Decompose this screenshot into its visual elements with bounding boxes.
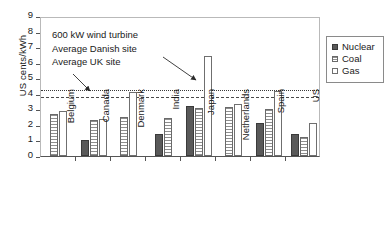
legend-item-coal[interactable]: Coal [332,53,379,65]
x-axis-separator-tick [285,157,286,161]
x-axis-separator-tick [250,157,251,161]
bar-denmark-coal [120,117,128,156]
x-axis-label-india: India [169,89,183,163]
legend-label: Nuclear [342,41,375,53]
x-axis-label-denmark: Denmark [134,89,148,163]
x-axis-separator-tick [75,157,76,161]
x-axis-label-belgium: Belgium [64,89,78,163]
x-axis-separator-tick [215,157,216,161]
y-axis-tick-label: 2 [28,119,33,129]
x-axis-label-canada: Canada [99,89,113,163]
bar-belgium-coal [50,114,58,156]
y-axis-tick-label: 5 [28,72,33,82]
x-axis-separator-tick [180,157,181,161]
annotation-line: Average UK site [52,55,138,69]
y-axis-tick-label: 9 [28,10,33,20]
y-axis-tick-label: 7 [28,41,33,51]
y-axis-tick-label: 0 [28,150,33,160]
legend-label: Coal [342,53,362,65]
bar-india-nuclear [155,134,163,156]
annotation-text-block: 600 kW wind turbineAverage Danish siteAv… [52,28,138,69]
x-axis-separator-tick [110,157,111,161]
y-axis-tick-label: 6 [28,57,33,67]
bar-japan-coal [195,108,203,156]
legend-label: Gas [342,65,359,77]
y-axis-title: US cents/kWh [17,6,28,126]
x-axis-label-netherlands: Netherlands [239,89,253,163]
legend-swatch-coal [332,56,338,62]
legend-swatch-gas [332,68,338,74]
bar-netherlands-coal [225,107,233,156]
bar-us-coal [300,137,308,156]
x-axis-label-spain: Spain [274,89,288,163]
chart-figure: US cents/kWh 0123456789 BelgiumCanadaDen… [0,0,392,228]
bar-canada-coal [90,120,98,156]
bar-us-nuclear [291,134,299,156]
x-axis-label-us: US [309,89,323,163]
bar-canada-nuclear [81,140,89,156]
x-axis-label-japan: Japan [204,89,218,163]
bar-japan-nuclear [186,106,194,156]
bar-spain-coal [265,109,273,156]
y-axis-tick-label: 8 [28,26,33,36]
y-axis-tick-mark [36,157,40,158]
legend-item-nuclear[interactable]: Nuclear [332,41,379,53]
y-axis-tick-label: 1 [28,134,33,144]
y-axis-tick-label: 3 [28,103,33,113]
annotation-line: Average Danish site [52,42,138,56]
bar-spain-nuclear [256,123,264,156]
y-axis-tick-label: 4 [28,88,33,98]
legend-item-gas[interactable]: Gas [332,65,379,77]
legend-swatch-nuclear [332,44,338,50]
chart-legend: NuclearCoalGas [326,36,384,83]
annotation-line: 600 kW wind turbine [52,28,138,42]
x-axis-separator-tick [145,157,146,161]
